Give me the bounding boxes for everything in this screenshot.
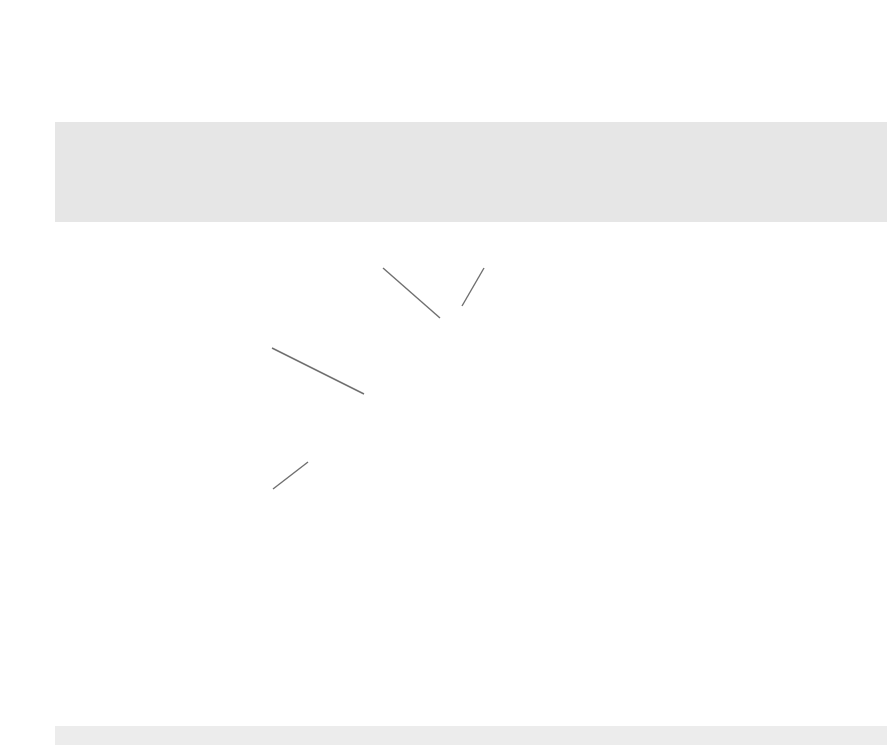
figure-canvas <box>0 0 887 745</box>
bottom-band <box>55 726 887 745</box>
leader-line-no-religion <box>383 268 440 318</box>
leader-line-protestantism <box>273 462 308 489</box>
leader-line-unspecified <box>272 348 364 394</box>
pie-chart <box>0 0 887 745</box>
leader-lines <box>272 268 484 489</box>
leader-line-other <box>462 268 484 306</box>
